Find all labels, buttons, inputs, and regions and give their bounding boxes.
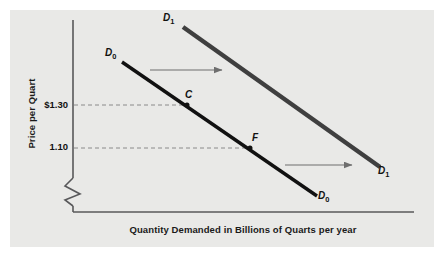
x-axis-title: Quantity Demanded in Billions of Quarts … xyxy=(73,224,413,235)
curve-label-d0-top: D0 xyxy=(105,47,116,61)
y-axis-break-zigzag xyxy=(65,178,80,206)
demand-curve-d1 xyxy=(183,27,380,167)
y-tick-label-130: $1.30 xyxy=(14,99,68,110)
curve-label-d1-bottom-subscript: 1 xyxy=(385,170,389,179)
point-label-f: F xyxy=(252,132,258,143)
curve-label-d0-top-subscript: 0 xyxy=(112,52,116,61)
point-marker-c xyxy=(185,103,190,108)
curve-label-d1-top-subscript: 1 xyxy=(170,17,174,26)
curve-label-d0-bottom: D0 xyxy=(318,190,329,204)
curve-label-d1-top: D1 xyxy=(163,12,174,26)
point-label-c: C xyxy=(185,89,192,100)
curve-label-d1-bottom: D1 xyxy=(378,165,389,179)
curve-label-d0-bottom-subscript: 0 xyxy=(325,195,329,204)
point-marker-f xyxy=(248,146,253,151)
y-axis xyxy=(65,20,80,212)
demand-curve-figure: Price per Quart Quantity Demanded in Bil… xyxy=(0,0,443,268)
demand-curve-d0 xyxy=(122,62,317,196)
y-tick-label-110: 1.10 xyxy=(14,141,68,152)
